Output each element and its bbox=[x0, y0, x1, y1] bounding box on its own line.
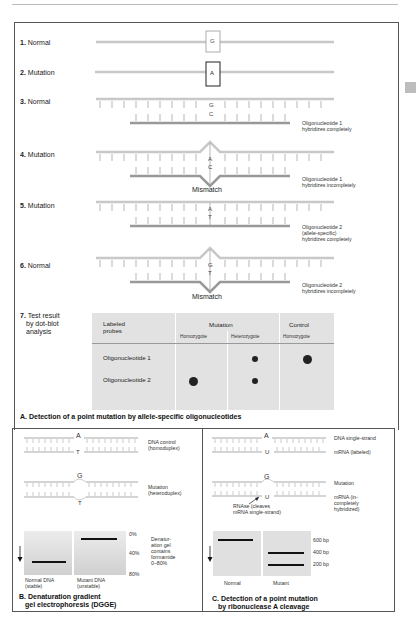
panel-c-dna-label: DNA single-strand bbox=[334, 435, 376, 441]
lane-label-normal: Normal bbox=[224, 580, 241, 586]
band-normal-600bp bbox=[218, 539, 253, 541]
panel-c-mutation-top-base: G bbox=[264, 473, 269, 480]
size-200bp: 200 bp bbox=[313, 561, 329, 567]
size-400bp: 400 bp bbox=[313, 549, 329, 555]
migration-arrow-icon bbox=[207, 546, 217, 566]
rnase-note: RNAse (cleavesmRNA single-strand) bbox=[233, 503, 281, 515]
band-mutant-400bp bbox=[268, 552, 304, 554]
panel-c-mrna-label: mRNA (labeled) bbox=[334, 449, 371, 455]
lane-label-mutant: Mutant bbox=[273, 580, 289, 586]
rnase-lane-normal bbox=[213, 531, 261, 576]
panel-c-mutation-bottom-base: U bbox=[265, 494, 269, 500]
panel-c-control-bottom-base: U bbox=[265, 449, 269, 455]
panel-c-control-top-base: A bbox=[264, 432, 269, 439]
panel-c-mrna-incomplete-label: mRNA (in-completelyhybridized) bbox=[334, 494, 359, 512]
size-600bp: 600 bp bbox=[313, 537, 329, 543]
panel-c-caption: C. Detection of a point mutationby ribon… bbox=[212, 595, 318, 611]
band-mutant-200bp bbox=[268, 564, 304, 566]
panel-c-mutation-label: Mutation bbox=[334, 480, 354, 486]
